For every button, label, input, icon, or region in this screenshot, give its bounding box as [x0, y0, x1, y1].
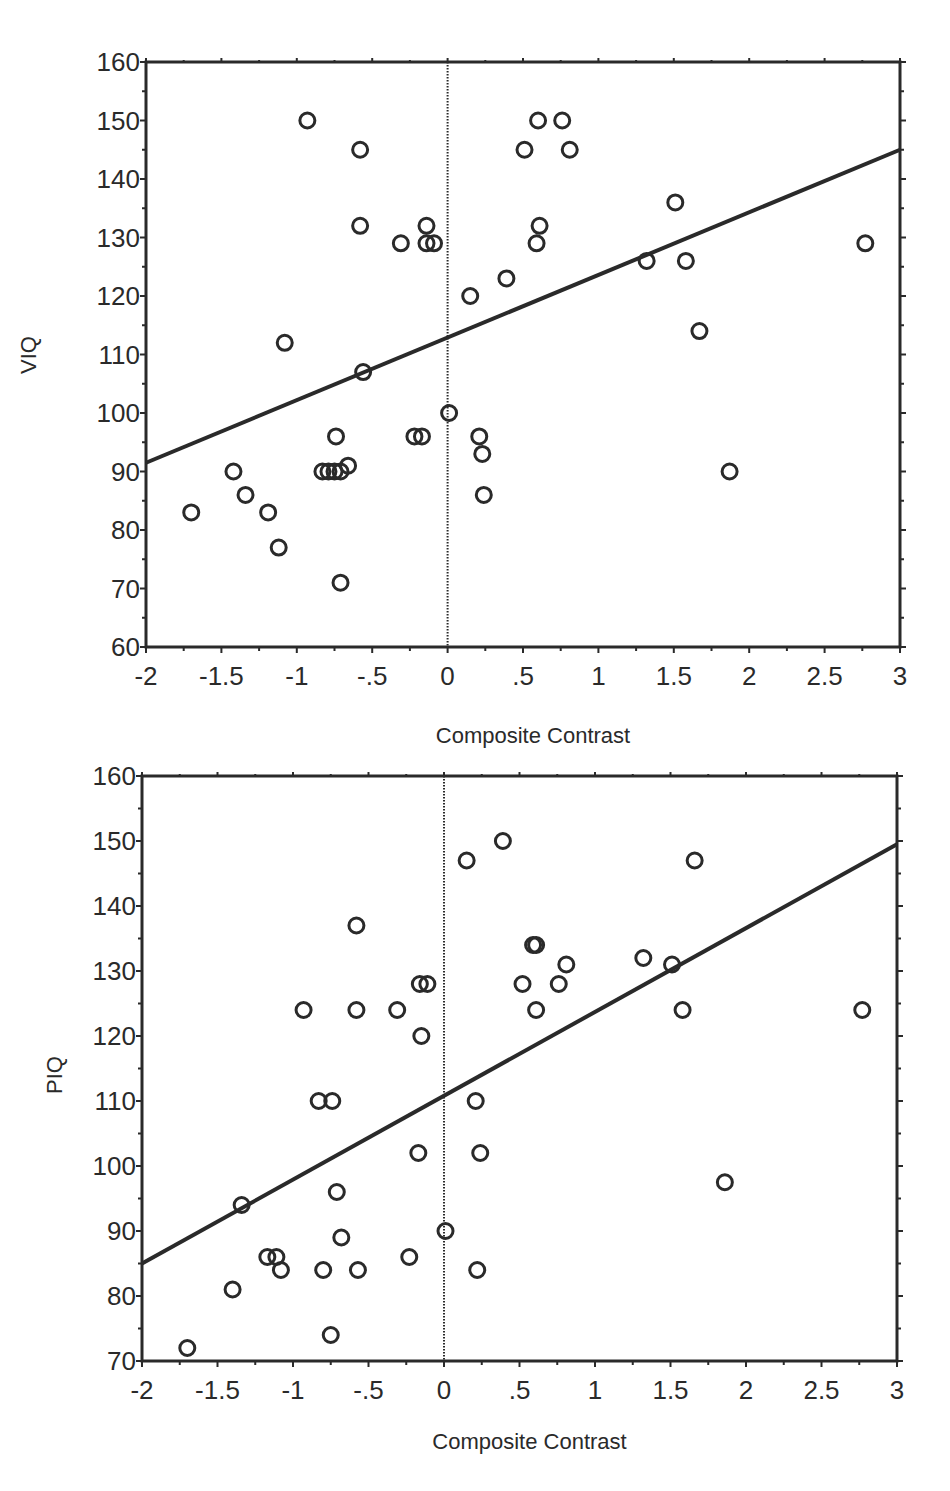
y-tick-label: 110 — [95, 1086, 136, 1116]
data-point — [334, 1230, 349, 1245]
y-axis-label: PIQ — [42, 1056, 67, 1094]
x-tick-label: 2.5 — [803, 1375, 839, 1405]
data-point — [470, 1263, 485, 1278]
x-tick-label: -1 — [281, 1375, 304, 1405]
data-point — [855, 1003, 870, 1018]
data-point — [390, 1003, 405, 1018]
data-point — [551, 977, 566, 992]
x-tick-label: -2 — [130, 1375, 153, 1405]
data-point — [296, 1003, 311, 1018]
data-point — [468, 1094, 483, 1109]
data-point — [459, 853, 474, 868]
x-tick-label: 1.5 — [652, 1375, 688, 1405]
plot-frame — [142, 776, 897, 1361]
x-tick-label: 3 — [890, 1375, 904, 1405]
x-tick-label: 2 — [739, 1375, 753, 1405]
x-tick-label: 1 — [588, 1375, 602, 1405]
y-tick-label: 70 — [107, 1346, 136, 1376]
data-point — [529, 1003, 544, 1018]
data-point — [316, 1263, 331, 1278]
data-point — [402, 1250, 417, 1265]
y-tick-label: 100 — [93, 1151, 136, 1181]
x-tick-label: -.5 — [353, 1375, 383, 1405]
piq-scatter-chart: -2-1.5-1-.50.511.522.5370809010011012013… — [0, 0, 950, 1491]
x-tick-label: -1.5 — [195, 1375, 240, 1405]
y-tick-label: 140 — [93, 891, 136, 921]
data-point — [559, 957, 574, 972]
y-tick-label: 120 — [93, 1021, 136, 1051]
data-point — [180, 1341, 195, 1356]
data-point — [515, 977, 530, 992]
x-tick-label: 0 — [437, 1375, 451, 1405]
data-point — [636, 951, 651, 966]
data-point — [687, 853, 702, 868]
y-tick-label: 130 — [93, 956, 136, 986]
x-tick-label: .5 — [509, 1375, 531, 1405]
y-tick-label: 160 — [93, 761, 136, 791]
y-tick-label: 90 — [107, 1216, 136, 1246]
data-point — [349, 1003, 364, 1018]
data-point — [473, 1146, 488, 1161]
data-point — [717, 1175, 732, 1190]
data-point — [323, 1328, 338, 1343]
y-tick-label: 80 — [107, 1281, 136, 1311]
data-point — [329, 1185, 344, 1200]
data-point — [414, 1029, 429, 1044]
x-axis-label: Composite Contrast — [432, 1429, 626, 1454]
data-point — [411, 1146, 426, 1161]
regression-line — [142, 844, 897, 1263]
data-point — [675, 1003, 690, 1018]
data-point — [225, 1282, 240, 1297]
data-point — [350, 1263, 365, 1278]
data-point — [438, 1224, 453, 1239]
y-tick-label: 150 — [93, 826, 136, 856]
data-point — [495, 834, 510, 849]
data-point — [349, 918, 364, 933]
